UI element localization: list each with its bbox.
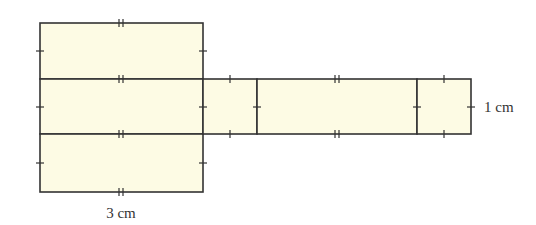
- top-face: [40, 23, 203, 79]
- bottom-face: [40, 134, 203, 192]
- height-label: 1 cm: [484, 99, 514, 115]
- side-face-2: [417, 79, 471, 134]
- prism-net-diagram: 3 cm 1 cm: [0, 0, 536, 225]
- back-face: [257, 79, 417, 134]
- front-face: [40, 79, 203, 134]
- side-face-1: [203, 79, 257, 134]
- width-label: 3 cm: [106, 205, 136, 221]
